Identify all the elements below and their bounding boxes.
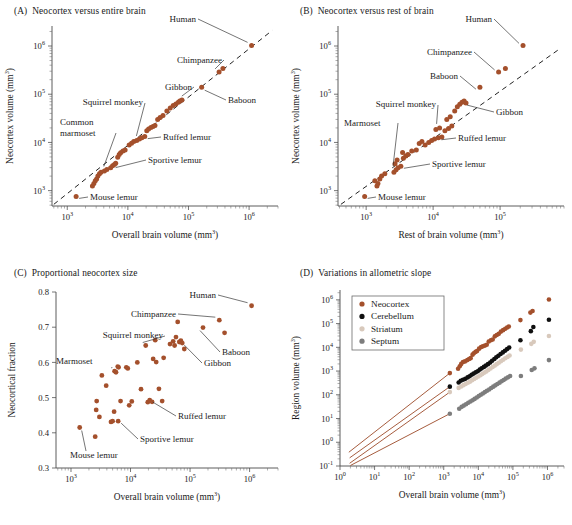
data-point xyxy=(175,320,180,325)
label-leader-line xyxy=(368,197,376,198)
label-leader-line xyxy=(148,137,161,139)
panel-d: (D) Variations in allometric slope 10010… xyxy=(286,262,572,520)
data-point xyxy=(222,330,227,335)
data-point xyxy=(93,434,98,439)
data-point xyxy=(171,339,176,344)
data-point xyxy=(152,123,157,128)
legend-marker xyxy=(359,314,364,319)
data-point xyxy=(547,297,552,302)
tick-label: 0.8 xyxy=(38,287,49,297)
tick-label: 101 xyxy=(321,412,333,424)
tick-label: 105 xyxy=(319,87,331,99)
data-point xyxy=(362,194,367,199)
panel-c-plot: 1031041051060.30.40.50.60.70.8Overall br… xyxy=(0,262,286,520)
data-point xyxy=(529,329,534,334)
point-label: Sportive lemur xyxy=(140,434,194,444)
data-point xyxy=(74,194,79,199)
label-leader-line xyxy=(205,90,226,100)
data-point xyxy=(448,390,453,395)
point-label: Gibbon xyxy=(165,82,193,92)
data-point xyxy=(129,399,134,404)
data-point xyxy=(395,158,400,163)
data-point xyxy=(118,399,123,404)
tick-label: 105 xyxy=(183,210,195,222)
tick-label: 0.4 xyxy=(38,428,49,438)
point-label: Gibbon xyxy=(204,358,232,368)
panel-b-plot: 103104105103104105106Rest of brain volum… xyxy=(286,0,572,262)
data-point xyxy=(199,85,204,90)
legend-label: Striatum xyxy=(371,324,403,334)
data-point xyxy=(114,370,119,375)
data-point xyxy=(531,325,536,330)
tick-label: 103 xyxy=(33,184,45,196)
data-point xyxy=(135,360,140,365)
legend-label: Cerebellum xyxy=(371,311,414,321)
data-point xyxy=(409,149,414,154)
tick-label: 102 xyxy=(403,470,415,482)
data-point xyxy=(506,324,511,329)
tick-label: 103 xyxy=(61,210,73,222)
data-point xyxy=(519,347,524,352)
label-leader-line xyxy=(494,19,519,43)
data-point xyxy=(448,411,453,416)
legend-label: Septum xyxy=(371,336,399,346)
label-leader-line xyxy=(218,295,248,303)
data-point xyxy=(94,399,99,404)
point-label: Chimpanzee xyxy=(177,55,222,65)
point-label: Ruffed lemur xyxy=(178,411,226,421)
point-label: Sportive lemur xyxy=(148,155,202,165)
data-point xyxy=(142,134,147,139)
point-label: Baboon xyxy=(222,347,250,357)
tick-label: 106 xyxy=(319,39,331,51)
tick-label: 104 xyxy=(321,341,333,353)
data-point xyxy=(464,100,469,105)
label-leader-line xyxy=(460,76,476,89)
data-point xyxy=(398,164,403,169)
data-point xyxy=(547,334,552,339)
data-point xyxy=(507,345,512,350)
point-label: Baboon xyxy=(228,95,256,105)
point-label: Ruffed lemur xyxy=(458,133,506,143)
allometric-fit-line xyxy=(350,387,450,458)
tick-label: 105 xyxy=(33,87,45,99)
data-point xyxy=(217,318,222,323)
data-point xyxy=(503,66,508,71)
tick-label: 0.7 xyxy=(38,322,49,332)
panel-d-plot: 10010110210310410510610-1100101102103104… xyxy=(286,262,572,520)
data-point xyxy=(94,408,99,413)
data-point xyxy=(174,335,179,340)
data-point xyxy=(249,43,254,48)
tick-label: 10-1 xyxy=(319,459,333,471)
point-label: Human xyxy=(190,290,217,300)
label-leader-line xyxy=(404,164,430,168)
tick-label: 101 xyxy=(369,470,381,482)
data-point xyxy=(217,69,222,74)
tick-label: 104 xyxy=(319,136,331,148)
label-leader-line xyxy=(467,105,494,112)
y-axis-label: Region volume (mm3) xyxy=(289,336,302,420)
data-point xyxy=(99,373,104,378)
panel-c: (C) Proportional neocortex size 10310410… xyxy=(0,262,286,520)
x-axis-label: Overall brain volume (mm3) xyxy=(112,228,218,241)
tick-label: 102 xyxy=(321,388,333,400)
panel-b: (B) Neocortex versus rest of brain 10310… xyxy=(286,0,572,262)
label-leader-line xyxy=(184,345,202,363)
data-point xyxy=(372,178,377,183)
point-label: Human xyxy=(170,14,197,24)
panel-a: (A) Neocortex versus entire brain 103104… xyxy=(0,0,286,262)
point-label: Squirrel monkey xyxy=(103,330,164,340)
data-point xyxy=(97,415,102,420)
data-point xyxy=(531,340,536,345)
data-point xyxy=(496,69,501,74)
point-label: Ruffed lemur xyxy=(163,132,211,142)
data-point xyxy=(547,317,552,322)
data-point xyxy=(249,303,254,308)
tick-label: 104 xyxy=(33,136,45,148)
label-leader-line xyxy=(82,431,86,451)
label-leader-line xyxy=(136,103,145,136)
data-point xyxy=(507,353,512,358)
label-leader-line xyxy=(200,331,220,352)
tick-label: 106 xyxy=(243,210,255,222)
tick-label: 106 xyxy=(321,293,333,305)
y-axis-label: Neocortex volume (mm3) xyxy=(289,68,302,164)
